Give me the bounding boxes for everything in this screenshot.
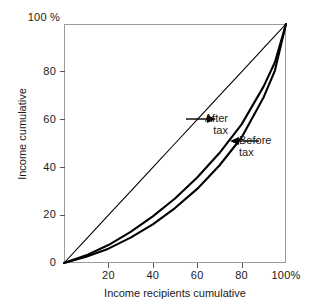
x-tick-label-40: 40 (146, 270, 159, 281)
x-tick-label-100: 100% (272, 270, 301, 281)
x-tick-label-20: 20 (102, 270, 115, 281)
y-axis-title: Income cumulative (16, 64, 28, 204)
annotation-after-tax-line1: After (205, 112, 228, 124)
x-axis-title: Income recipients cumulative (64, 287, 286, 299)
x-tick-mark-40 (153, 263, 154, 268)
y-tick-mark-80 (60, 71, 65, 72)
annotation-before-tax-line1: Before (239, 134, 271, 146)
annotation-after-tax-line2: tax (182, 124, 228, 136)
y-tick-label-20: 20 (18, 209, 56, 220)
annotation-after-tax: After tax (182, 112, 228, 136)
x-tick-label-80: 80 (235, 270, 248, 281)
y-tick-mark-40 (60, 167, 65, 168)
y-tick-mark-60 (60, 119, 65, 120)
annotation-before-tax-line2: tax (239, 146, 299, 158)
y-axis-top-label: 100 % (18, 12, 60, 23)
y-tick-mark-20 (60, 215, 65, 216)
x-tick-mark-20 (108, 263, 109, 268)
y-tick-label-0: 0 (18, 257, 56, 268)
lorenz-curve-chart: 100 % 80 60 40 20 0 20 40 60 80 100% Inc… (0, 0, 311, 308)
x-tick-mark-60 (197, 263, 198, 268)
x-tick-mark-80 (242, 263, 243, 268)
annotation-before-tax: Before tax (239, 134, 299, 158)
x-tick-label-60: 60 (191, 270, 204, 281)
